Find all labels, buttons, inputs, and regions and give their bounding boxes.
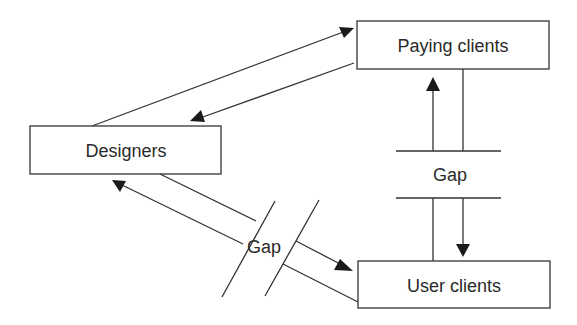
gap-diagonal: Gap xyxy=(112,174,358,302)
edge-designers-to-gap xyxy=(160,174,256,221)
edge-gap-to-users-diag xyxy=(296,241,344,266)
gap-diagonal-label: Gap xyxy=(247,237,281,257)
node-paying-clients: Paying clients xyxy=(357,21,549,69)
paying-clients-label: Paying clients xyxy=(397,36,508,56)
edge-paying-to-designers xyxy=(200,63,354,118)
arrowhead-to-users-diag xyxy=(334,259,353,271)
gap-diagram: Paying clients Designers User clients Ga… xyxy=(0,0,577,325)
arrowhead-to-designers-top xyxy=(190,110,205,122)
edge-gap-to-designers xyxy=(122,185,243,244)
user-clients-label: User clients xyxy=(407,276,501,296)
designers-label: Designers xyxy=(85,141,166,161)
gap-vertical: Gap xyxy=(396,69,501,261)
node-user-clients: User clients xyxy=(358,261,550,308)
node-designers: Designers xyxy=(30,126,221,174)
arrowhead-to-users-down xyxy=(456,244,470,257)
arrowhead-to-paying-up xyxy=(426,77,440,91)
gap-vertical-label: Gap xyxy=(433,165,467,185)
